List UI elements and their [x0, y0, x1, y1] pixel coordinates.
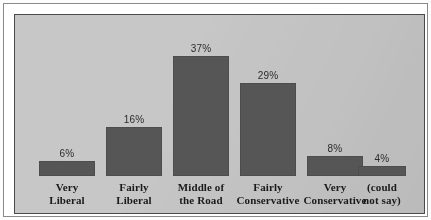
bar-chart-panel: 6%VeryLiberal16%FairlyLiberal37%Middle o…: [14, 14, 425, 214]
bar-rect[interactable]: [358, 166, 406, 176]
figure-root: 6%VeryLiberal16%FairlyLiberal37%Middle o…: [0, 0, 431, 220]
plot-area: 6%VeryLiberal16%FairlyLiberal37%Middle o…: [15, 15, 424, 213]
bar-value-label: 37%: [157, 43, 245, 54]
bar-value-label: 16%: [90, 114, 178, 125]
bar-value-label: 6%: [23, 148, 111, 159]
bar-rect[interactable]: [240, 83, 296, 176]
figure-outer-frame: 6%VeryLiberal16%FairlyLiberal37%Middle o…: [3, 3, 428, 217]
bar-group: 4%(couldnot say): [358, 15, 406, 213]
bar-category-label-line: (could: [336, 181, 425, 194]
bar-value-label: 29%: [224, 70, 312, 81]
bar-category-label: (couldnot say): [336, 181, 425, 206]
bar-value-label: 4%: [342, 153, 422, 164]
bar-rect[interactable]: [39, 161, 95, 176]
bar-rect[interactable]: [173, 56, 229, 176]
bar-category-label-line: not say): [336, 194, 425, 207]
bar-rect[interactable]: [106, 127, 162, 176]
